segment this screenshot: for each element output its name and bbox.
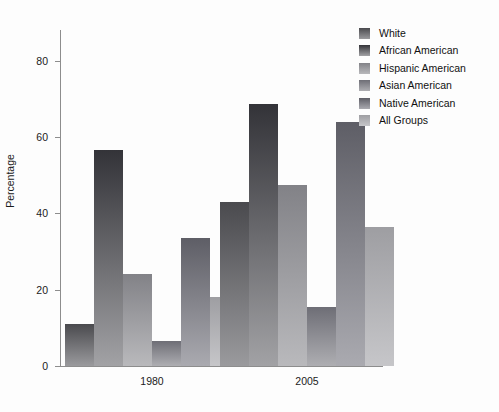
bars-layer [60,30,383,366]
legend-swatch-icon [359,80,370,91]
legend-item[interactable]: All Groups [359,114,466,128]
legend-item-label: Hispanic American [379,63,466,74]
bar [365,227,394,366]
legend-swatch-icon [359,63,370,74]
y-tick-label: 80 [8,56,48,67]
bar [65,324,94,366]
x-axis-line [60,366,383,367]
legend-swatch-icon [359,28,370,39]
legend-item[interactable]: Hispanic American [359,61,466,75]
y-tick-label: 0 [8,361,48,372]
bar [307,307,336,366]
y-axis-title: Percentage [4,154,16,208]
bar-chart: Percentage 020406080 19802005 WhiteAfric… [0,0,499,412]
legend-item[interactable]: African American [359,44,466,58]
bar [220,202,249,366]
legend-item-label: Asian American [379,80,452,91]
bar [336,122,365,366]
legend-swatch-icon [359,45,370,56]
y-tick-mark [55,366,61,367]
bar [181,238,210,366]
legend-item[interactable]: White [359,26,466,40]
bar [249,104,278,366]
y-tick-label: 40 [8,208,48,219]
legend-item-label: White [379,28,406,39]
legend-item[interactable]: Native American [359,96,466,110]
y-tick-label: 20 [8,285,48,296]
x-tick-label: 1980 [140,375,163,387]
bar [278,185,307,366]
legend-swatch-icon [359,98,370,109]
bar [152,341,181,366]
legend-item-label: Native American [379,98,455,109]
bar [94,150,123,366]
legend-item[interactable]: Asian American [359,79,466,93]
legend-swatch-icon [359,115,370,126]
y-tick-label: 60 [8,132,48,143]
bar [123,274,152,366]
legend-item-label: African American [379,45,458,56]
legend-item-label: All Groups [379,115,428,126]
x-tick-label: 2005 [295,375,318,387]
chart-legend: WhiteAfrican AmericanHispanic AmericanAs… [359,26,466,128]
